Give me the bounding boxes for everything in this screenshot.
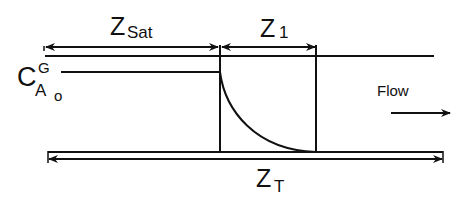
z-sat-subscript: Sat (127, 24, 153, 41)
zt-subscript: T (274, 178, 284, 195)
conc-sub-subscript: o (54, 88, 62, 103)
conc-main: C (17, 64, 37, 91)
diagram-canvas (0, 0, 467, 201)
z1-main: Z (260, 16, 275, 41)
conc-subscript: A (35, 82, 46, 99)
flow-label: Flow (377, 83, 409, 98)
conc-superscript: G (38, 60, 50, 75)
z-sat-dimension-arrow (44, 46, 218, 51)
z1-subscript: 1 (279, 24, 288, 41)
concentration-profile-curve (220, 72, 316, 152)
zt-main: Z (256, 166, 271, 191)
z-sat-main: Z (110, 14, 125, 39)
